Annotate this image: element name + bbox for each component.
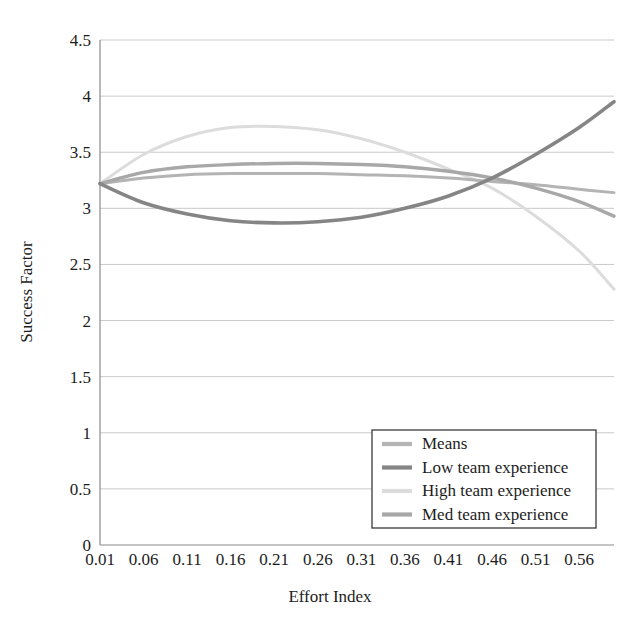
y-tick-label: 0.5 bbox=[70, 480, 91, 499]
legend-label: Low team experience bbox=[422, 458, 568, 477]
x-tick-label: 0.41 bbox=[434, 550, 464, 569]
x-tick-label: 0.21 bbox=[259, 550, 289, 569]
x-tick-label: 0.16 bbox=[216, 550, 246, 569]
data-series bbox=[100, 102, 614, 289]
x-tick-label: 0.06 bbox=[129, 550, 159, 569]
y-tick-label: 0 bbox=[83, 536, 92, 555]
y-tick-label: 3 bbox=[83, 199, 92, 218]
y-axis-title: Success Factor bbox=[17, 241, 36, 343]
legend-label: Means bbox=[422, 434, 467, 453]
x-tick-label: 0.36 bbox=[390, 550, 420, 569]
y-tick-label: 3.5 bbox=[70, 143, 91, 162]
legend-label: High team experience bbox=[422, 481, 571, 500]
y-tick-label: 2 bbox=[83, 312, 92, 331]
y-tick-label: 4 bbox=[83, 87, 92, 106]
chart-container: 0.010.060.110.160.210.260.310.360.410.46… bbox=[0, 0, 644, 625]
y-tick-label: 1.5 bbox=[70, 368, 91, 387]
y-tick-label: 4.5 bbox=[70, 31, 91, 50]
x-tick-label: 0.26 bbox=[303, 550, 333, 569]
x-tick-label: 0.51 bbox=[521, 550, 551, 569]
x-tick-label: 0.56 bbox=[564, 550, 594, 569]
x-tick-label: 0.11 bbox=[173, 550, 202, 569]
chart-legend: MeansLow team experienceHigh team experi… bbox=[372, 430, 596, 528]
x-axis-title: Effort Index bbox=[288, 587, 372, 606]
series-line bbox=[100, 102, 614, 223]
x-axis-tick-labels: 0.010.060.110.160.210.260.310.360.410.46… bbox=[85, 550, 594, 569]
y-tick-label: 2.5 bbox=[70, 255, 91, 274]
legend-label: Med team experience bbox=[422, 505, 568, 524]
y-tick-label: 1 bbox=[83, 424, 92, 443]
x-tick-label: 0.31 bbox=[346, 550, 376, 569]
y-axis-tick-labels: 00.511.522.533.544.5 bbox=[70, 31, 92, 555]
gridlines bbox=[100, 40, 614, 489]
x-tick-label: 0.46 bbox=[477, 550, 507, 569]
line-chart: 0.010.060.110.160.210.260.310.360.410.46… bbox=[0, 0, 644, 625]
